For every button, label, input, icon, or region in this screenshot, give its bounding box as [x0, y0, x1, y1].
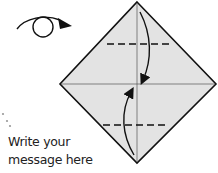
decorative-dots [2, 113, 11, 127]
message-line-2: message here [8, 151, 93, 169]
turn-over-icon [17, 17, 72, 37]
message-text: Write your message here [8, 133, 93, 169]
message-line-1: Write your [8, 133, 93, 151]
diagram-canvas: Write your message here [0, 0, 218, 173]
